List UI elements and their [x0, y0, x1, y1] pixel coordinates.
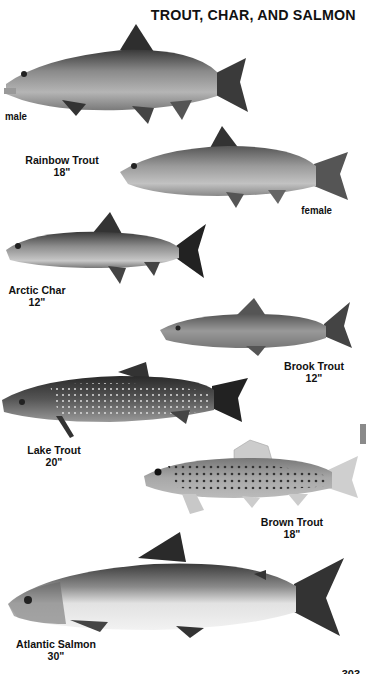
atlantic-salmon-label: Atlantic Salmon 30" [14, 638, 99, 662]
species-name: Rainbow Trout [25, 154, 98, 166]
rainbow-trout-male-illustration [2, 22, 250, 128]
brook-trout-label: Brook Trout 12" [277, 360, 351, 384]
rainbow-trout-label: Rainbow Trout 18" [25, 154, 99, 178]
lake-trout-illustration [0, 356, 252, 440]
species-name: Atlantic Salmon [16, 638, 96, 650]
species-size: 18" [25, 166, 99, 178]
arctic-char-label: Arctic Char 12" [7, 284, 68, 308]
brown-trout-illustration [138, 436, 360, 520]
species-size: 12" [7, 296, 68, 308]
rainbow-trout-male-label: male [5, 110, 27, 122]
arctic-char-illustration [4, 210, 208, 290]
rainbow-trout-female-illustration [118, 124, 350, 212]
rainbow-trout-female-label: female [301, 204, 332, 216]
page-edge-tab [360, 424, 366, 444]
species-size: 12" [277, 372, 351, 384]
species-name: Brook Trout [284, 360, 344, 372]
species-name: Arctic Char [8, 284, 65, 296]
lake-trout-label: Lake Trout 20" [23, 444, 86, 468]
species-name: Brown Trout [261, 516, 323, 528]
brook-trout-illustration [158, 296, 354, 358]
species-name: Lake Trout [27, 444, 81, 456]
species-size: 30" [14, 650, 99, 662]
atlantic-salmon-illustration [4, 528, 348, 640]
page-number: 303 [342, 666, 360, 674]
species-size: 20" [23, 456, 86, 468]
